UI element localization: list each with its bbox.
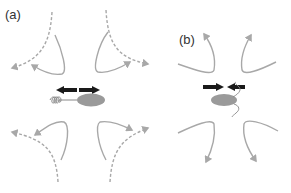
dashed-flow-line-bottom-right bbox=[110, 128, 148, 182]
dashed-flow-line-top-right bbox=[106, 10, 148, 64]
dashed-flow-line-top-left bbox=[12, 12, 52, 68]
force-arrows-a bbox=[56, 86, 100, 94]
flow-loop-bottom-left bbox=[35, 122, 68, 160]
flow-line-bottom-left bbox=[178, 122, 215, 162]
force-arrow-right-icon bbox=[203, 83, 224, 91]
flow-loop-bottom-right bbox=[98, 122, 132, 160]
swimmer-body-b bbox=[211, 94, 237, 106]
swimmer-body-a bbox=[77, 94, 105, 107]
helical-flagellum-a bbox=[50, 97, 77, 103]
flow-loop-top-right bbox=[96, 32, 130, 72]
dashed-flow-line-bottom-left bbox=[12, 132, 58, 182]
force-arrow-right-icon bbox=[79, 86, 100, 94]
flow-line-top-left bbox=[178, 34, 215, 72]
force-arrow-left-icon bbox=[56, 86, 77, 94]
flow-line-bottom-right bbox=[244, 121, 278, 161]
flagellum-b-bottom bbox=[232, 104, 239, 117]
flow-line-top-right bbox=[242, 35, 276, 72]
flow-diagram bbox=[0, 0, 291, 193]
